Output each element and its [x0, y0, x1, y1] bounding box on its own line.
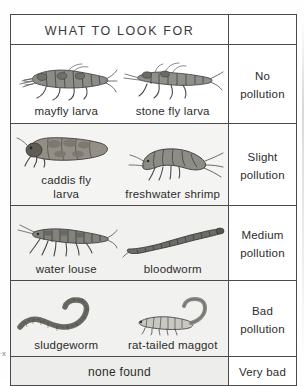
pollution-level-label: Medium pollution [240, 229, 285, 259]
specimen-caddis-fly-larva: caddis fly larva [13, 128, 120, 201]
rat-tailed-maggot-illustration [120, 293, 227, 337]
stone-fly-larva-illustration [120, 59, 227, 103]
pollution-level-cell-slight-pollution: Slight pollution [229, 124, 297, 206]
water-quality-indicator-table: WHAT TO LOOK FOR [10, 14, 296, 373]
bloodworm-illustration [120, 217, 227, 261]
mayfly-larva-illustration [13, 59, 120, 103]
freshwater-shrimp-illustration [120, 142, 227, 186]
specimen-cell-row-4: sludgeworm [11, 281, 229, 357]
specimen-stone-fly-larva: stone fly larva [120, 59, 227, 119]
specimen-label: stone fly larva [136, 105, 210, 119]
specimen-label: bloodworm [144, 263, 202, 277]
table-row: mayfly larva [11, 45, 297, 124]
table-row: caddis fly larva [11, 124, 297, 206]
specimen-water-louse: water louse [13, 217, 120, 277]
pollution-level-cell-medium-pollution: Medium pollution [229, 206, 297, 281]
none-found-label: none found [88, 365, 151, 379]
specimen-label: rat-tailed maggot [128, 339, 218, 353]
specimen-rat-tailed-maggot: rat-tailed maggot [120, 293, 227, 353]
specimen-cell-row-2: caddis fly larva [11, 124, 229, 206]
table-row: none found Very bad [11, 357, 297, 386]
sludgeworm-illustration [13, 293, 120, 337]
page-title: WHAT TO LOOK FOR [45, 24, 195, 38]
caddis-fly-larva-illustration [13, 128, 120, 172]
pollution-level-cell-bad-pollution: Bad pollution [229, 281, 297, 357]
specimen-label: freshwater shrimp [125, 188, 220, 202]
specimen-mayfly-larva: mayfly larva [13, 59, 120, 119]
pollution-level-cell-very-bad: Very bad [229, 357, 297, 386]
specimen-cell-row-3: water louse [11, 206, 229, 281]
specimen-cell-none-found: none found [11, 357, 229, 386]
specimen-label: caddis fly larva [41, 174, 91, 201]
table-row: water louse [11, 206, 297, 281]
specimen-label: mayfly larva [34, 105, 98, 119]
pollution-level-label: No pollution [240, 70, 285, 100]
pollution-level-label: Bad pollution [240, 305, 285, 335]
specimen-bloodworm: bloodworm [120, 217, 227, 277]
specimen-label: sludgeworm [34, 339, 98, 353]
table-header-row: WHAT TO LOOK FOR [11, 15, 297, 45]
pollution-level-label: Very bad [239, 366, 286, 378]
scan-edge-shadow [302, 20, 304, 360]
header-cell-what-to-look-for: WHAT TO LOOK FOR [11, 15, 229, 45]
water-louse-illustration [13, 217, 120, 261]
header-cell-pollution-blank [229, 15, 297, 45]
pollution-level-cell-no-pollution: No pollution [229, 45, 297, 124]
specimen-label: water louse [36, 263, 97, 277]
table-row: sludgeworm [11, 281, 297, 357]
scan-edge-artifact: ·х [0, 349, 12, 359]
lookfor-table: WHAT TO LOOK FOR [10, 14, 297, 386]
specimen-sludgeworm: sludgeworm [13, 293, 120, 353]
specimen-freshwater-shrimp: freshwater shrimp [120, 142, 227, 202]
pollution-level-label: Slight pollution [240, 151, 285, 181]
specimen-cell-row-1: mayfly larva [11, 45, 229, 124]
